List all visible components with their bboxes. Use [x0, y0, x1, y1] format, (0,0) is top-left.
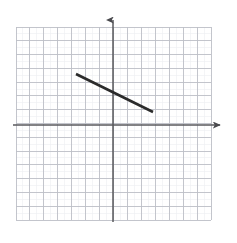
coordinate-plane-graph — [0, 0, 237, 243]
figure-root — [0, 0, 237, 243]
bottom-caption — [22, 229, 222, 243]
